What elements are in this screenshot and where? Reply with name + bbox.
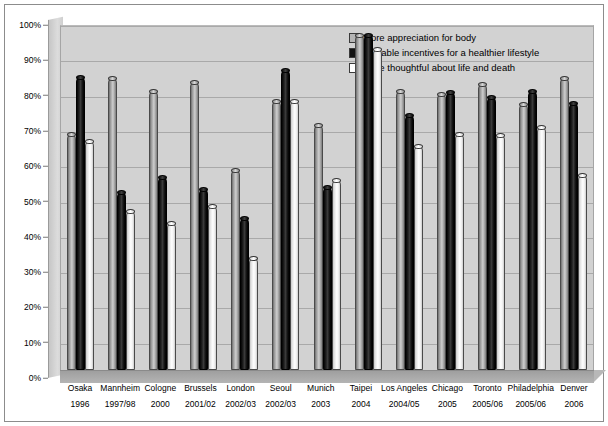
bar [314,125,323,370]
x-axis-category: Osaka1996 [60,384,100,422]
bar-cap [149,89,158,94]
bar [373,49,382,370]
bar-cap [396,89,405,94]
bar [332,180,341,370]
x-axis-year-label: 2005 [427,400,467,409]
bar [405,115,414,370]
x-axis-category: Philadelphia2005/06 [508,384,554,422]
bar-cap [208,204,217,209]
x-axis-year-label: 2004/05 [381,400,427,409]
bar-cap [578,173,587,178]
bar-cap [190,80,199,85]
y-axis-tick: 100% [8,21,48,30]
x-axis-year-label: 2000 [140,400,180,409]
bar [478,84,487,370]
bar-cap [281,68,290,73]
x-axis-city-label: London [221,384,261,393]
x-axis-category: Los Angeles2004/05 [381,384,427,422]
y-axis-tick-label: 80% [24,91,41,100]
bar-group [265,25,306,370]
bar-cap [85,139,94,144]
bar-group [142,25,183,370]
x-axis-year-label: 2002/03 [221,400,261,409]
x-axis-year-label: 2005/06 [508,400,554,409]
bar [414,146,423,370]
x-axis-category: Denver2006 [554,384,594,422]
bar-cap [373,47,382,52]
bar-cap [272,99,281,104]
bar-cap [487,95,496,100]
bar-cap [364,33,373,38]
bar [199,189,208,370]
bar [396,91,405,370]
x-axis-year-label: 2004 [341,400,381,409]
y-axis-tick: 90% [8,56,48,65]
bar [208,206,217,370]
x-axis-year-label: 2001/02 [180,400,220,409]
bar [149,91,158,370]
x-axis-year-label: 2005/06 [467,400,507,409]
bar [455,134,464,370]
bar-cap [108,76,117,81]
bar-group [101,25,142,370]
bar-group [183,25,224,370]
bar-cap [332,178,341,183]
x-axis-category: Chicago2005 [427,384,467,422]
bar [364,35,373,370]
bar-cap [569,101,578,106]
bar [355,35,364,370]
bar [272,101,281,370]
y-axis-tick: 60% [8,162,48,171]
x-axis-year-label: 2003 [301,400,341,409]
y-axis-tick-label: 30% [24,268,41,277]
bar-cap [240,216,249,221]
x-axis-city-label: Cologne [140,384,180,393]
x-axis-category: Taipei2004 [341,384,381,422]
y-axis-tick-label: 0% [29,374,41,383]
x-axis-year-label: 2002/03 [261,400,301,409]
bar-cap [167,221,176,226]
y-axis-tick-label: 20% [24,303,41,312]
bar [85,141,94,370]
bar-cap [199,187,208,192]
bar [67,134,76,370]
bar-cap [314,123,323,128]
x-axis-city-label: Taipei [341,384,381,393]
bar [76,77,85,370]
x-axis-year-label: 1997/98 [100,400,140,409]
bar-cap [437,92,446,97]
x-axis-city-label: Los Angeles [381,384,427,393]
bar [126,211,135,370]
bar-cap [560,76,569,81]
bar [117,192,126,370]
y-axis-tick-label: 90% [24,56,41,65]
x-axis-category: Cologne2000 [140,384,180,422]
bar-cap [290,99,299,104]
bar-cap [405,113,414,118]
bar [231,170,240,370]
bar-cap [76,75,85,80]
bar [569,103,578,370]
y-axis-tick: 0% [8,374,48,383]
y-axis-tick-label: 50% [24,197,41,206]
y-axis-tick: 20% [8,303,48,312]
x-axis-city-label: Mannheim [100,384,140,393]
bar-cap [455,132,464,137]
bar [158,177,167,370]
bar-cap [323,185,332,190]
x-axis-category: Mannheim1997/98 [100,384,140,422]
bar-cap [414,144,423,149]
y-axis-tick-label: 10% [24,338,41,347]
x-axis-city-label: Chicago [427,384,467,393]
bar [281,70,290,370]
x-axis-category: London2002/03 [221,384,261,422]
bar [537,127,546,370]
bar-cap [446,90,455,95]
x-axis-city-label: Osaka [60,384,100,393]
y-axis-tick-label: 60% [24,162,41,171]
x-axis-city-label: Philadelphia [508,384,554,393]
x-axis-city-label: Munich [301,384,341,393]
bar-cap [158,175,167,180]
legend-label: More thoughtful about life and death [363,63,515,73]
bar-cap [126,209,135,214]
